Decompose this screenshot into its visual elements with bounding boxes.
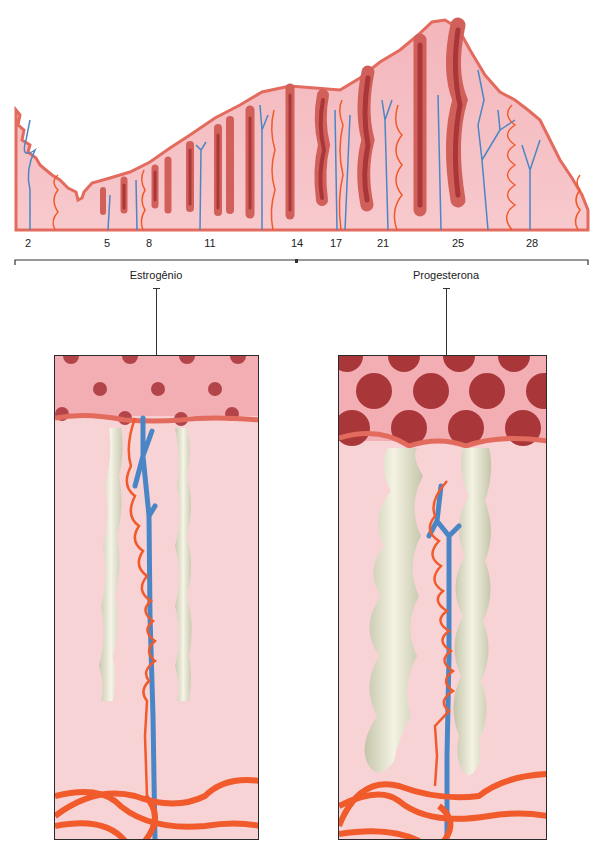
- cycle-day-label: 25: [452, 237, 464, 249]
- connector-line-progesterone: [446, 288, 447, 355]
- endometrium-cycle-illustration: [0, 0, 604, 235]
- phase-label-estrogen: Estrogênio: [130, 269, 183, 281]
- panel-progesterone-secretory: [338, 355, 547, 840]
- connector-line-estrogen: [156, 288, 157, 355]
- stroma: [55, 418, 259, 840]
- cycle-day-label: 8: [146, 237, 152, 249]
- cycle-day-label: 14: [291, 237, 303, 249]
- cycle-day-label: 17: [330, 237, 342, 249]
- phase-bracket: [0, 255, 604, 267]
- cycle-day-label: 21: [377, 237, 389, 249]
- panel-estrogen-proliferative: [54, 355, 259, 840]
- cycle-day-label: 28: [526, 237, 538, 249]
- cycle-day-label: 5: [104, 237, 110, 249]
- cycle-day-label: 2: [25, 237, 31, 249]
- phase-label-progesterone: Progesterona: [413, 269, 479, 281]
- cycle-day-label: 11: [204, 237, 215, 249]
